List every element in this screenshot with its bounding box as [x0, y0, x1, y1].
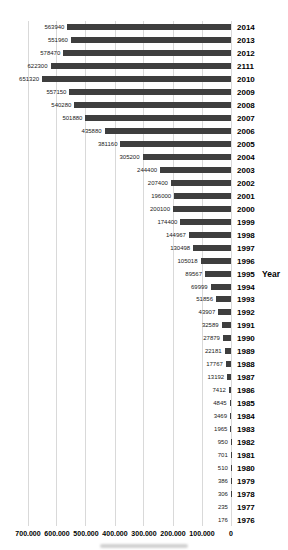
year-label: 2012: [237, 49, 255, 58]
bar-value-label: 540280: [51, 102, 71, 108]
year-label: 2002: [237, 178, 255, 187]
bar: [71, 37, 231, 43]
bar-value-label: 51856: [196, 296, 213, 302]
x-axis-tick-label: 200.000: [160, 530, 185, 537]
year-label: 1997: [237, 243, 255, 252]
bar-value-label: 89567: [185, 271, 202, 277]
bar-value-label: 17767: [206, 361, 223, 367]
x-axis-tick-label: 400.000: [102, 530, 127, 537]
bar-row: 518561993: [28, 293, 231, 306]
bar: [193, 245, 231, 251]
x-axis-tick-label: 300.000: [131, 530, 156, 537]
year-label: 2001: [237, 191, 255, 200]
year-label: 1992: [237, 308, 255, 317]
bar-row: 2351977: [28, 500, 231, 513]
bar-row: 5402802008: [28, 99, 231, 112]
bar-row: 34691984: [28, 410, 231, 423]
bar: [51, 63, 231, 69]
bar: [143, 154, 232, 160]
year-label: 1998: [237, 230, 255, 239]
year-label: 2000: [237, 204, 255, 213]
bar-value-label: 578470: [40, 50, 60, 56]
bar-value-label: 551960: [48, 37, 68, 43]
year-label: 2013: [237, 36, 255, 45]
x-axis-tick-label: 600.000: [44, 530, 69, 537]
bar: [160, 167, 231, 173]
bar: [230, 426, 231, 432]
bar-value-label: 196000: [151, 193, 171, 199]
bar-row: 3061978: [28, 487, 231, 500]
year-label: 1995: [237, 269, 255, 278]
year-label: 1989: [237, 347, 255, 356]
bar-value-label: 69999: [191, 284, 208, 290]
bar-row: 1960002001: [28, 189, 231, 202]
bar-value-label: 557150: [46, 89, 66, 95]
bar-chart: 5639402014551960201357847020126223002111…: [0, 0, 288, 550]
bar: [225, 348, 231, 354]
bar-row: 131921987: [28, 371, 231, 384]
year-label: 1993: [237, 295, 255, 304]
bar: [120, 141, 231, 147]
bar-row: 1744001999: [28, 215, 231, 228]
bar-value-label: 305200: [119, 154, 139, 160]
bar-value-label: 174400: [157, 219, 177, 225]
bar-row: 5571502009: [28, 86, 231, 99]
bar: [180, 219, 231, 225]
bar-row: 439071992: [28, 306, 231, 319]
bar-value-label: 3469: [214, 413, 227, 419]
bar-row: 221811989: [28, 345, 231, 358]
bar-value-label: 22181: [205, 348, 222, 354]
x-axis-tick-label: 500.000: [73, 530, 98, 537]
y-axis-title: Year: [262, 269, 280, 279]
bar-row: 1304981997: [28, 241, 231, 254]
bar-row: 7011981: [28, 448, 231, 461]
bar-value-label: 13192: [208, 374, 225, 380]
bar-row: 74121986: [28, 384, 231, 397]
bar: [223, 335, 231, 341]
bar: [227, 374, 231, 380]
bar-row: 3052002004: [28, 151, 231, 164]
year-label: 1983: [237, 425, 255, 434]
bar-value-label: 144967: [166, 232, 186, 238]
year-label: 1996: [237, 256, 255, 265]
year-label: 1981: [237, 450, 255, 459]
bar-row: 5519602013: [28, 34, 231, 47]
year-label: 2111: [237, 62, 254, 71]
bar-row: 2444002003: [28, 163, 231, 176]
year-label: 1990: [237, 334, 255, 343]
cropped-caption-artifact: [100, 544, 188, 548]
bar-row: 177671988: [28, 358, 231, 371]
bar-row: 9501982: [28, 436, 231, 449]
bar: [229, 387, 231, 393]
bar-row: 5018802007: [28, 112, 231, 125]
bar-row: 278791990: [28, 332, 231, 345]
bar-value-label: 235: [218, 504, 228, 510]
bar: [230, 400, 231, 406]
year-label: 1978: [237, 489, 255, 498]
bar-row: 5101980: [28, 461, 231, 474]
year-label: 2003: [237, 165, 255, 174]
bar-row: 48451985: [28, 397, 231, 410]
bar: [173, 206, 231, 212]
year-label: 1991: [237, 321, 255, 330]
year-label: 1986: [237, 386, 255, 395]
year-label: 1976: [237, 515, 255, 524]
bar-value-label: 27879: [203, 335, 220, 341]
bar-row: 19651983: [28, 423, 231, 436]
bar: [222, 322, 231, 328]
year-label: 2010: [237, 75, 255, 84]
plot-area: 5639402014551960201357847020126223002111…: [28, 21, 231, 526]
bar-value-label: 176: [218, 517, 228, 523]
year-label: 1988: [237, 360, 255, 369]
year-label: 1982: [237, 437, 255, 446]
year-label: 1980: [237, 463, 255, 472]
bar-value-label: 7412: [213, 387, 226, 393]
bar-row: 1050181996: [28, 254, 231, 267]
bar: [105, 128, 231, 134]
bar-value-label: 130498: [170, 245, 190, 251]
bar-row: 1761976: [28, 513, 231, 526]
bar: [211, 284, 231, 290]
x-axis: 700.000600.000500.000400.000300.000200.0…: [28, 530, 231, 542]
bar-row: 699991994: [28, 280, 231, 293]
bar-value-label: 651320: [19, 76, 39, 82]
